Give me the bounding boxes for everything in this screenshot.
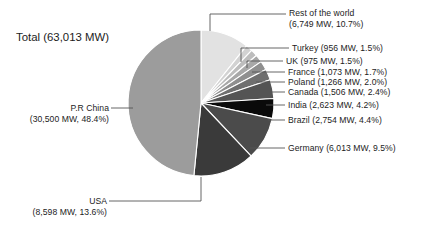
slice-label-canada: Canada (1,506 MW, 2.4%) <box>288 87 390 98</box>
pie-chart-figure: Total (63,013 MW) Rest of the world (6,7… <box>0 0 431 228</box>
slice-label-uk: UK (975 MW, 1.5%) <box>286 56 363 67</box>
leader-line-usa <box>109 177 201 201</box>
slice-label-turkey: Turkey (956 MW, 1.5%) <box>292 43 383 54</box>
leader-line-rest-of-world <box>210 14 286 31</box>
slice-label-usa: USA (8,598 MW, 13.6%) <box>0 196 107 217</box>
slice-label-china-line1: P.R China <box>70 103 109 113</box>
slice-label-india: India (2,623 MW, 4.2%) <box>288 100 379 111</box>
slice-label-rest-of-world-line2: (6,749 MW, 10.7%) <box>289 19 363 30</box>
slice-label-germany: Germany (6,013 MW, 9.5%) <box>288 143 396 154</box>
slice-label-china-line2: (30,500 MW, 48.4%) <box>0 114 109 125</box>
slice-label-brazil: Brazil (2,754 MW, 4.4%) <box>288 115 382 126</box>
slice-label-rest-of-world-line1: Rest of the world <box>289 8 354 18</box>
pie-slice-p-r-china <box>128 30 201 176</box>
slice-label-usa-line1: USA <box>89 196 107 206</box>
slice-label-poland: Poland (1,266 MW, 2.0%) <box>288 77 387 88</box>
slice-label-france: France (1,073 MW, 1.7%) <box>288 67 387 78</box>
slice-label-usa-line2: (8,598 MW, 13.6%) <box>0 207 107 218</box>
pie-slice-group <box>128 30 274 176</box>
chart-total-label: Total (63,013 MW) <box>16 31 109 43</box>
slice-label-rest-of-world: Rest of the world (6,749 MW, 10.7%) <box>289 8 363 29</box>
slice-label-china: P.R China (30,500 MW, 48.4%) <box>0 103 109 124</box>
